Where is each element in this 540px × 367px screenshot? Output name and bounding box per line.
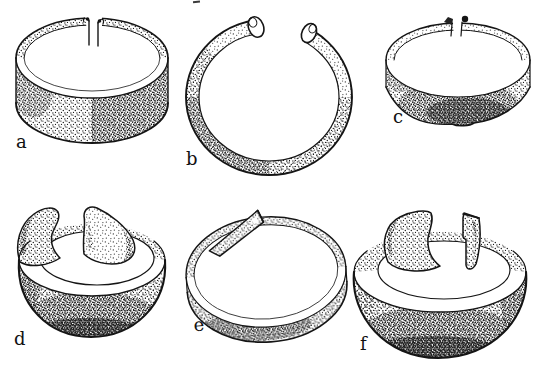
bracelet-f-drawing xyxy=(348,211,532,366)
figure-label-a: a xyxy=(16,131,27,152)
figure-label-e: e xyxy=(193,313,205,335)
figure-label-f: f xyxy=(360,333,368,354)
bracelet-a-drawing xyxy=(13,12,168,143)
bracelet-plate-svg: a b xyxy=(0,0,540,367)
figure-a: a xyxy=(13,12,168,152)
illustration-plate: a b xyxy=(0,0,540,367)
figure-e: e xyxy=(177,204,356,348)
crop-artifact-mark xyxy=(193,1,200,4)
outlines xyxy=(182,212,350,348)
figure-label-d: d xyxy=(14,328,26,349)
figure-f: f xyxy=(348,211,532,366)
wing-right xyxy=(463,213,480,269)
figure-label-c: c xyxy=(393,106,403,127)
figure-b: b xyxy=(186,0,352,175)
bracelet-b-drawing xyxy=(186,0,352,175)
bracelet-d-drawing xyxy=(12,207,172,352)
figure-c: c xyxy=(382,8,530,131)
figure-d: d xyxy=(12,207,172,352)
figure-label-b: b xyxy=(186,148,198,169)
band-shading xyxy=(348,262,532,366)
wing-right xyxy=(83,207,134,264)
gap xyxy=(245,0,325,97)
bracelet-c-drawing xyxy=(382,8,530,131)
